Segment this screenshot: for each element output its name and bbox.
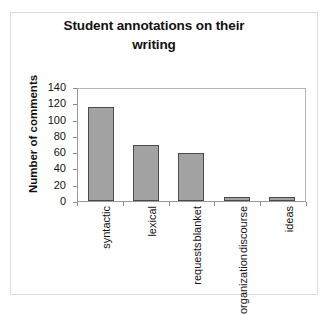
y-tick-label: 20: [54, 179, 66, 191]
x-tick-mark: [306, 202, 307, 206]
x-label-slot: lexical: [123, 206, 169, 290]
y-tick-label: 40: [54, 162, 66, 174]
bar-slot: [78, 89, 123, 201]
x-label-slot: blanketrequests: [169, 206, 215, 290]
x-axis-label: discourseorganization: [237, 206, 250, 315]
bar: [88, 107, 114, 201]
x-label-slot: ideas: [260, 206, 306, 290]
bar: [178, 153, 204, 201]
x-axis-label-line: syntactic: [100, 206, 113, 249]
y-tick-label: 60: [54, 146, 66, 158]
y-tick-label: 140: [48, 81, 66, 93]
bar-series: [78, 89, 305, 201]
y-axis-ticks: 020406080100120140: [0, 0, 77, 312]
y-tick-label: 80: [54, 130, 66, 142]
bar: [133, 145, 159, 202]
y-tick-label: 0: [60, 195, 66, 207]
bar: [224, 197, 250, 201]
x-axis-label: lexical: [146, 206, 159, 238]
bar-slot: [260, 89, 305, 201]
x-label-slot: discourseorganization: [214, 206, 260, 290]
bar-slot: [214, 89, 259, 201]
x-axis-label: ideas: [283, 206, 296, 233]
y-tick-label: 120: [48, 97, 66, 109]
x-axis-label-line: ideas: [283, 206, 296, 232]
x-label-slot: syntactic: [77, 206, 123, 290]
x-axis-label-line: discourse: [237, 206, 250, 253]
x-axis-label-line: requests: [191, 242, 204, 284]
bar-slot: [169, 89, 214, 201]
x-axis-labels: syntacticlexicalblanketrequestsdiscourse…: [77, 206, 306, 290]
x-axis-label-line: organization: [237, 254, 250, 314]
x-axis-label: blanketrequests: [191, 206, 204, 286]
y-tick-label: 100: [48, 114, 66, 126]
bar: [269, 197, 295, 201]
bar-slot: [123, 89, 168, 201]
x-axis-label: syntactic: [100, 206, 113, 250]
x-axis-label-line: blanket: [191, 206, 204, 241]
x-axis-label-line: lexical: [146, 206, 159, 237]
